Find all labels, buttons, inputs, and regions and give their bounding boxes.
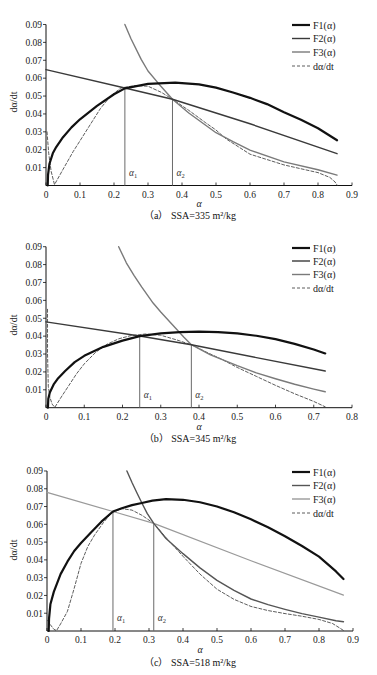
- axes: 0.010.020.030.040.050.060.070.080.0900.1…: [25, 20, 358, 200]
- alpha-marker-label: α1: [129, 168, 137, 179]
- y-tick-label: 0.05: [26, 537, 43, 547]
- figure: 0.010.020.030.040.050.060.070.080.0900.1…: [0, 0, 377, 675]
- x-tick-label: 0.6: [245, 635, 257, 645]
- x-tick-label: 0: [44, 412, 49, 422]
- y-tick-label: 0.09: [25, 242, 42, 252]
- plot-series: [46, 24, 337, 185]
- y-tick-label: 0.08: [26, 484, 43, 494]
- alpha-marker-label: α2: [158, 613, 166, 624]
- y-tick-label: 0.01: [25, 385, 42, 395]
- x-tick-label: 0.5: [231, 412, 243, 422]
- alpha-subscript: 2: [181, 172, 184, 179]
- x-tick-label: 0.1: [75, 635, 87, 645]
- x-axis-label: α: [197, 644, 203, 655]
- x-axis-label: α: [196, 421, 202, 432]
- alpha-subscript: 2: [163, 617, 166, 624]
- alpha-marker-label: α2: [195, 390, 203, 401]
- x-tick-label: 0.3: [155, 412, 167, 422]
- x-tick-label: 0.8: [346, 412, 358, 422]
- legend-item-f1: F1(α): [292, 20, 335, 32]
- y-tick-label: 0.09: [26, 466, 43, 476]
- legend-item-f1: F1(α): [292, 467, 335, 479]
- x-tick-label: 0.7: [278, 190, 290, 200]
- legend-label: F2(α): [313, 256, 335, 268]
- x-tick-label: 0.2: [108, 190, 120, 200]
- y-tick-label: 0.08: [25, 260, 42, 270]
- y-tick-label: 0.05: [25, 91, 42, 101]
- x-tick-label: 0.2: [117, 412, 129, 422]
- x-tick-label: 0.4: [177, 635, 189, 645]
- y-tick-label: 0.01: [26, 609, 43, 619]
- y-tick-label: 0.03: [25, 127, 42, 137]
- y-axis-label: dα/dt: [8, 539, 19, 560]
- chart-panel-a: 0.010.020.030.040.050.060.070.080.0900.1…: [8, 20, 358, 222]
- y-tick-label: 0.03: [26, 573, 43, 583]
- y-tick-label: 0.04: [25, 109, 42, 119]
- x-tick-label: 0: [45, 635, 50, 645]
- panel-caption: （b） SSA=345 m²/kg: [144, 433, 237, 444]
- legend-item-f2: F2(α): [292, 33, 335, 45]
- series-line: [46, 322, 325, 371]
- x-tick-label: 0.4: [176, 190, 188, 200]
- y-tick-label: 0.06: [25, 73, 42, 83]
- legend-label: F2(α): [313, 480, 335, 492]
- legend-label: dα/dt: [313, 283, 334, 294]
- x-tick-label: 0.9: [346, 190, 358, 200]
- x-tick-label: 0: [44, 190, 49, 200]
- x-tick-label: 0.1: [74, 190, 86, 200]
- axes: 0.010.020.030.040.050.060.070.080.0900.1…: [26, 466, 359, 645]
- y-axis-label: dα/dt: [8, 314, 19, 335]
- y-tick-label: 0.02: [25, 145, 42, 155]
- alpha-marker-label: α2: [176, 168, 184, 179]
- y-tick-label: 0.07: [25, 278, 42, 288]
- legend-item-f1: F1(α): [292, 243, 335, 255]
- legend-label: dα/dt: [313, 61, 334, 72]
- x-tick-label: 0.1: [78, 412, 90, 422]
- series-line: [119, 247, 326, 392]
- legend-item-dadt: dα/dt: [292, 508, 334, 519]
- series-line: [125, 24, 337, 175]
- series-line: [127, 471, 344, 622]
- alpha-subscript: 1: [149, 394, 152, 401]
- alpha-subscript: 1: [122, 617, 125, 624]
- x-tick-label: 0.6: [270, 412, 282, 422]
- y-tick-label: 0.01: [25, 163, 42, 173]
- alpha-subscript: 2: [200, 394, 203, 401]
- x-tick-label: 0.3: [143, 635, 155, 645]
- legend: F1(α) F2(α) F3(α) dα/dt: [292, 467, 335, 519]
- y-tick-label: 0.02: [25, 367, 42, 377]
- series-line: [47, 86, 337, 186]
- legend-item-f3: F3(α): [292, 47, 335, 59]
- x-tick-label: 0.6: [244, 190, 256, 200]
- x-tick-label: 0.5: [210, 190, 222, 200]
- alpha-subscript: 1: [134, 172, 137, 179]
- y-tick-label: 0.07: [25, 56, 42, 66]
- plot-series: [46, 247, 325, 408]
- legend-item-f3: F3(α): [292, 494, 335, 506]
- series-line: [48, 83, 337, 186]
- chart-panel-b: 0.010.020.030.040.050.060.070.080.0900.1…: [8, 242, 358, 444]
- x-tick-label: 0.3: [142, 190, 154, 200]
- y-tick-label: 0.02: [26, 591, 43, 601]
- x-tick-label: 0.8: [313, 635, 325, 645]
- y-tick-label: 0.07: [26, 502, 43, 512]
- legend-item-dadt: dα/dt: [292, 61, 334, 72]
- x-axis-label: α: [196, 198, 202, 209]
- alpha-marker-label: α1: [144, 390, 152, 401]
- series-line: [48, 309, 326, 407]
- y-tick-label: 0.04: [25, 331, 42, 341]
- y-tick-label: 0.04: [26, 555, 43, 565]
- plot-series: [47, 471, 343, 631]
- legend-label: F1(α): [313, 20, 335, 32]
- x-tick-label: 0.5: [211, 635, 223, 645]
- y-tick-label: 0.05: [25, 314, 42, 324]
- y-tick-label: 0.06: [26, 520, 43, 530]
- y-tick-label: 0.06: [25, 296, 42, 306]
- legend: F1(α) F2(α) F3(α) dα/dt: [292, 243, 335, 294]
- panel-caption: （c） SSA=518 m²/kg: [144, 657, 236, 668]
- y-tick-label: 0.09: [25, 20, 42, 30]
- legend-label: F1(α): [313, 467, 335, 479]
- x-tick-label: 0.7: [308, 412, 320, 422]
- legend-label: F3(α): [313, 47, 335, 59]
- legend-item-f2: F2(α): [292, 480, 335, 492]
